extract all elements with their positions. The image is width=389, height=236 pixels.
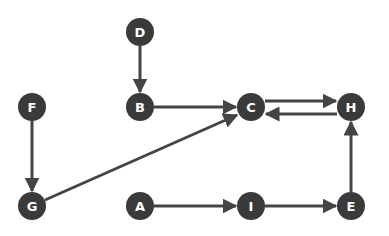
edges-group (32, 46, 351, 206)
node-g: G (18, 192, 46, 220)
node-f: F (18, 93, 46, 121)
node-label: E (347, 199, 356, 214)
node-label: B (135, 100, 145, 115)
node-c: C (237, 93, 265, 121)
node-label: H (346, 100, 357, 115)
node-label: F (28, 100, 37, 115)
node-a: A (126, 192, 154, 220)
node-label: A (135, 199, 145, 214)
node-label: G (27, 199, 38, 214)
directed-graph-diagram: DFBCHGAIE (0, 0, 389, 236)
edge-g-to-c-arrow (45, 115, 237, 200)
node-e: E (337, 192, 365, 220)
node-h: H (337, 93, 365, 121)
node-label: I (249, 199, 254, 214)
node-label: D (135, 25, 146, 40)
node-i: I (237, 192, 265, 220)
node-label: C (246, 100, 256, 115)
node-b: B (126, 93, 154, 121)
node-d: D (126, 18, 154, 46)
